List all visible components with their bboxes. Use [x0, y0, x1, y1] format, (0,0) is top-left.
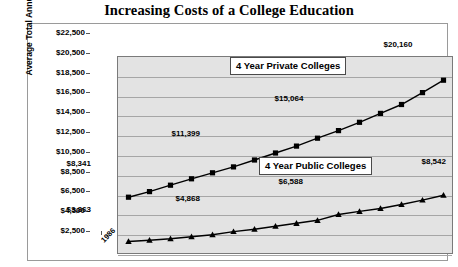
data-point-label: $8,542	[422, 157, 446, 166]
page-title: Increasing Costs of a College Education	[0, 2, 458, 19]
y-tick-mark	[86, 152, 90, 153]
y-tick-label: $12,500	[28, 127, 85, 136]
data-point-marker	[231, 164, 236, 169]
y-tick-mark	[86, 112, 90, 113]
data-point-marker	[441, 78, 446, 83]
data-point-label: $4,868	[176, 194, 200, 203]
private-series-callout: 4 Year Private Colleges	[230, 57, 346, 75]
y-tick-label: $14,500	[28, 107, 85, 116]
y-tick-mark	[86, 191, 90, 192]
y-tick-label: $18,500	[28, 68, 85, 77]
data-point-label: $3,863	[67, 205, 91, 214]
y-tick-label: $2,500	[28, 226, 85, 235]
y-tick-mark	[86, 231, 90, 232]
y-tick-label: $16,500	[28, 87, 85, 96]
series-lines	[118, 57, 454, 255]
chart-screenshot: Increasing Costs of a College Education …	[0, 0, 458, 267]
data-point-marker	[420, 90, 425, 95]
data-point-marker	[189, 176, 194, 181]
data-point-marker	[147, 189, 152, 194]
y-tick-mark	[86, 53, 90, 54]
data-point-marker	[294, 144, 299, 149]
y-tick-mark	[86, 92, 90, 93]
data-point-label: $15,064	[275, 94, 304, 103]
chart-frame: Average Total Annual Costs for College $…	[27, 23, 448, 261]
data-point-label: $11,399	[172, 129, 200, 138]
y-tick-label: $22,500	[28, 28, 85, 37]
data-point-marker	[336, 128, 341, 133]
y-axis-title: Average Total Annual Costs for College	[24, 0, 34, 76]
x-tick-label: 1986	[99, 226, 117, 244]
y-tick-mark	[86, 172, 90, 173]
data-point-marker	[399, 102, 404, 107]
data-point-label: $20,160	[384, 40, 413, 49]
data-point-marker	[315, 136, 320, 141]
y-tick-mark	[86, 33, 90, 34]
data-point-label: $6,588	[279, 177, 303, 186]
y-tick-mark	[86, 73, 90, 74]
y-tick-mark	[86, 132, 90, 133]
plot-area	[117, 56, 453, 254]
gridline	[118, 255, 452, 256]
data-point-marker	[252, 157, 257, 162]
public-series-callout: 4 Year Public Colleges	[259, 157, 372, 175]
data-point-marker	[440, 192, 446, 198]
y-tick-label: $10,500	[28, 147, 85, 156]
y-tick-label: $6,500	[28, 186, 85, 195]
data-point-marker	[126, 195, 131, 200]
y-tick-label: $20,500	[28, 48, 85, 57]
data-point-marker	[273, 150, 278, 155]
data-point-marker	[210, 170, 215, 175]
data-point-marker	[378, 111, 383, 116]
data-point-marker	[357, 120, 362, 125]
data-point-marker	[168, 183, 173, 188]
data-point-label: $8,341	[67, 159, 91, 168]
